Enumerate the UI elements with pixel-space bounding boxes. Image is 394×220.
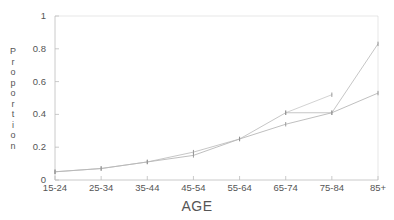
- x-axis-title: AGE: [0, 198, 394, 214]
- plot-area: [0, 0, 394, 220]
- chart-axes: [55, 16, 378, 180]
- series-line-series-2: [55, 44, 378, 172]
- series-line-series-3: [286, 95, 332, 113]
- series-line-series-1: [55, 93, 378, 172]
- line-chart: Proportion 1 0.8 0.6 0.4 0.2 0 15-24 25-…: [0, 0, 394, 220]
